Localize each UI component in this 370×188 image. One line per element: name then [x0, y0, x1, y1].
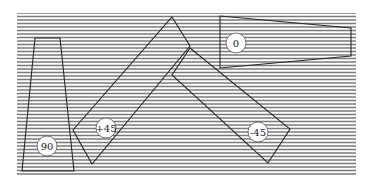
orientation-diagram: 90+45-450 [0, 0, 370, 188]
shape-0-label: 0 [233, 38, 239, 49]
shape-90-label: 90 [41, 141, 54, 152]
shape-plus45-label: +45 [95, 123, 116, 134]
hatched-background [17, 13, 356, 174]
shape-minus45-label: -45 [250, 127, 266, 138]
